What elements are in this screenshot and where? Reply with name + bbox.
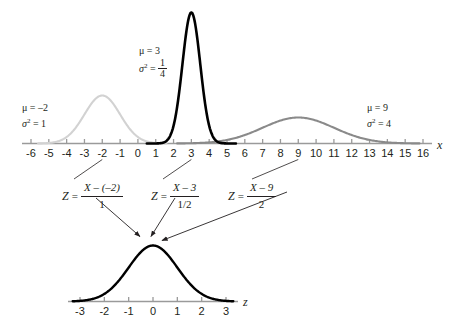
sigma2-fraction-denominator-3: 4: [158, 68, 167, 80]
x-axis-tick-label: 7: [260, 148, 266, 159]
z-axis-tick-label: 1: [174, 306, 180, 317]
x-axis-tick-label: 4: [206, 148, 212, 159]
x-axis-tick-label: 2: [170, 148, 176, 159]
x-axis-tick-label: -3: [80, 148, 90, 159]
x-axis-tick-label: 1: [153, 148, 159, 159]
leader-line-mu-3: [163, 160, 191, 180]
figure-canvas: [0, 0, 455, 324]
equals-sign-3: =: [238, 190, 244, 202]
standard-normal-curve: [73, 246, 234, 302]
z-formula-mu-3: Z = X – 3 1/2: [151, 181, 199, 212]
params-mu-9: μ = 9 σ2 = 4: [367, 101, 391, 131]
x-axis-tick-label: 16: [417, 148, 429, 159]
z-symbol-3: Z: [228, 189, 235, 204]
z-axis-tick-label: 3: [223, 306, 229, 317]
sigma2-equals-3: =: [150, 63, 156, 74]
fraction-3: X – 9 2: [247, 181, 276, 212]
params-mu-3: μ = 3 σ2 = 1 4: [139, 44, 167, 81]
x-axis-tick-label: -6: [26, 148, 36, 159]
z-axis-tick-label: 2: [199, 306, 205, 317]
z-axis-tick-label: -3: [75, 306, 85, 317]
x-axis-tick-label: 3: [188, 148, 194, 159]
fraction-numerator-3: X – 9: [247, 181, 276, 197]
sigma2-value-9: σ2 = 4: [367, 116, 391, 132]
normal-curve-mu-neg2: [38, 96, 166, 144]
mu-value-neg2: μ = –2: [22, 101, 48, 116]
sigma2-rhs-neg2: = 1: [33, 118, 46, 129]
sigma2-rhs-9: = 4: [378, 118, 391, 129]
sigma2-value-neg2: σ2 = 1: [22, 116, 48, 132]
fraction-1: X – (–2) 1: [81, 181, 123, 212]
sigma2-fraction-3: 1 4: [158, 58, 167, 80]
params-mu-neg2: μ = –2 σ2 = 1: [22, 101, 48, 131]
x-axis-tick-label: -4: [62, 148, 72, 159]
z-axis-tick-label: -2: [99, 306, 109, 317]
equals-sign-1: =: [72, 190, 78, 202]
sigma2-fraction-numerator-3: 1: [158, 58, 167, 69]
z-axis-tick-label: -1: [124, 306, 134, 317]
x-axis-tick-label: 13: [363, 148, 375, 159]
fraction-denominator-2: 1/2: [170, 197, 199, 212]
x-axis-tick-label: 5: [224, 148, 230, 159]
leader-lines-group: [74, 160, 298, 180]
fraction-denominator-3: 2: [247, 197, 276, 212]
sigma-exponent-9: 2: [372, 117, 376, 125]
sigma-exponent-neg2: 2: [27, 117, 31, 125]
leader-line-mu-9: [252, 160, 298, 180]
normal-distribution-standardization-figure: -6-5-4-3-2-1012345678910111213141516 -3-…: [0, 0, 455, 324]
fraction-denominator-1: 1: [81, 197, 123, 212]
x-axis-tick-label: 0: [135, 148, 141, 159]
x-axis-tick-label: 10: [310, 148, 322, 159]
x-axis-tick-label: 8: [277, 148, 283, 159]
x-axis-tick-label: 14: [381, 148, 393, 159]
x-axis-tick-label: 11: [328, 148, 339, 159]
x-axis-tick-label: -5: [44, 148, 54, 159]
x-axis-tick-label: 15: [399, 148, 411, 159]
equals-sign-2: =: [161, 190, 167, 202]
x-axis-tick-label: 9: [295, 148, 301, 159]
fraction-numerator-1: X – (–2): [81, 181, 123, 197]
fraction-2: X – 3 1/2: [170, 181, 199, 212]
z-formula-mu-9: Z = X – 9 2: [228, 181, 276, 212]
x-axis-tick-label: 12: [346, 148, 358, 159]
mu-value-9: μ = 9: [367, 101, 391, 116]
fraction-numerator-2: X – 3: [170, 181, 199, 197]
sigma2-value-3: σ2 = 1 4: [139, 59, 167, 81]
x-axis-tick-label: -2: [97, 148, 107, 159]
leader-line-mu-neg2: [74, 160, 102, 180]
x-axis-tick-label: -1: [115, 148, 125, 159]
z-symbol-1: Z: [62, 189, 69, 204]
sigma-exponent-3: 2: [144, 61, 148, 69]
z-formula-mu-neg2: Z = X – (–2) 1: [62, 181, 123, 212]
x-axis-label: x: [437, 138, 442, 153]
x-axis-tick-label: 6: [242, 148, 248, 159]
z-axis-label: z: [243, 295, 248, 310]
z-axis-tick-label: 0: [150, 306, 156, 317]
z-symbol-2: Z: [151, 189, 158, 204]
